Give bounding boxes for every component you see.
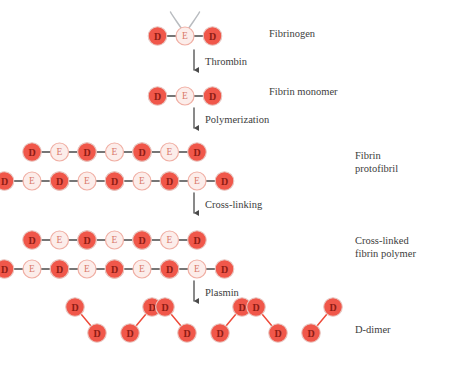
d-dimer-link bbox=[81, 314, 91, 326]
d-node-label: D bbox=[148, 302, 155, 313]
d-domain-node: D bbox=[247, 298, 266, 317]
d-domain-node: D bbox=[121, 324, 140, 343]
node-layer: DEDDEDDEDDEDDEDDEDDEDDEDDEDDEDDEDDEDDEDD… bbox=[0, 27, 342, 343]
e-node-label: E bbox=[182, 91, 188, 101]
d-dimer-link bbox=[317, 314, 327, 326]
e-domain-node: E bbox=[176, 27, 194, 45]
e-domain-node: E bbox=[78, 260, 96, 278]
e-node-label: E bbox=[182, 31, 188, 41]
d-domain-node: D bbox=[66, 298, 85, 317]
stage-label-fibrin-monomer: Fibrin monomer bbox=[269, 86, 338, 99]
d-node-label: D bbox=[154, 91, 161, 102]
d-domain-node: D bbox=[0, 260, 14, 279]
fibrinopeptide-whisker bbox=[171, 12, 182, 29]
d-node-label: D bbox=[83, 235, 90, 246]
d-domain-node: D bbox=[133, 231, 152, 250]
d-node-label: D bbox=[138, 235, 145, 246]
e-node-label: E bbox=[194, 176, 200, 186]
e-node-label: E bbox=[139, 176, 145, 186]
e-node-label: E bbox=[84, 176, 90, 186]
e-domain-node: E bbox=[23, 172, 41, 190]
d-domain-node: D bbox=[188, 231, 207, 250]
d-node-label: D bbox=[193, 147, 200, 158]
e-node-label: E bbox=[29, 264, 35, 274]
d-dimer-link bbox=[171, 314, 181, 326]
d-node-label: D bbox=[209, 91, 216, 102]
arrow-label-plasmin: Plasmin bbox=[205, 287, 239, 298]
e-node-label: E bbox=[84, 264, 90, 274]
e-domain-node: E bbox=[161, 231, 179, 249]
e-domain-node: E bbox=[133, 172, 151, 190]
arrow-label-polymerization: Polymerization bbox=[205, 114, 269, 125]
e-domain-node: E bbox=[23, 260, 41, 278]
e-domain-node: E bbox=[106, 231, 124, 249]
d-dimer-link bbox=[226, 314, 236, 326]
d-domain-node: D bbox=[160, 172, 179, 191]
d-dimer-link bbox=[136, 314, 146, 326]
d-node-label: D bbox=[166, 176, 173, 187]
d-domain-node: D bbox=[133, 143, 152, 162]
e-node-label: E bbox=[167, 147, 173, 157]
whisker-layer bbox=[171, 12, 200, 29]
d-domain-node: D bbox=[188, 143, 207, 162]
e-node-label: E bbox=[139, 264, 145, 274]
e-domain-node: E bbox=[106, 143, 124, 161]
d-domain-node: D bbox=[148, 87, 167, 106]
d-node-label: D bbox=[238, 302, 245, 313]
e-node-label: E bbox=[57, 235, 63, 245]
d-domain-node: D bbox=[23, 231, 42, 250]
d-node-label: D bbox=[56, 176, 63, 187]
e-domain-node: E bbox=[133, 260, 151, 278]
e-domain-node: E bbox=[78, 172, 96, 190]
d-domain-node: D bbox=[105, 260, 124, 279]
d-domain-node: D bbox=[23, 143, 42, 162]
d-domain-node: D bbox=[88, 324, 107, 343]
d-domain-node: D bbox=[215, 172, 234, 191]
d-node-label: D bbox=[1, 264, 8, 275]
d-node-label: D bbox=[193, 235, 200, 246]
d-node-label: D bbox=[221, 176, 228, 187]
d-node-label: D bbox=[209, 31, 216, 42]
fibrin-cascade-diagram: DEDDEDDEDDEDDEDDEDDEDDEDDEDDEDDEDDEDDEDD… bbox=[0, 0, 449, 366]
stage-label-cross-linked-fibrin-polymer: Cross-linked fibrin polymer bbox=[355, 235, 416, 260]
e-node-label: E bbox=[167, 235, 173, 245]
e-node-label: E bbox=[194, 264, 200, 274]
d-domain-node: D bbox=[105, 172, 124, 191]
d-domain-node: D bbox=[160, 260, 179, 279]
d-domain-node: D bbox=[156, 298, 175, 317]
d-node-label: D bbox=[329, 302, 336, 313]
d-domain-node: D bbox=[78, 231, 97, 250]
d-domain-node: D bbox=[203, 27, 222, 46]
d-node-label: D bbox=[138, 147, 145, 158]
e-domain-node: E bbox=[188, 172, 206, 190]
d-node-label: D bbox=[56, 264, 63, 275]
d-node-label: D bbox=[1, 176, 8, 187]
arrow-label-cross-linking: Cross-linking bbox=[205, 199, 262, 210]
d-domain-node: D bbox=[215, 260, 234, 279]
d-node-label: D bbox=[126, 328, 133, 339]
d-node-label: D bbox=[216, 328, 223, 339]
d-node-label: D bbox=[166, 264, 173, 275]
d-node-label: D bbox=[93, 328, 100, 339]
d-domain-node: D bbox=[178, 324, 197, 343]
d-node-label: D bbox=[111, 176, 118, 187]
d-domain-node: D bbox=[203, 87, 222, 106]
e-domain-node: E bbox=[188, 260, 206, 278]
d-domain-node: D bbox=[148, 27, 167, 46]
d-domain-node: D bbox=[50, 172, 69, 191]
fibrinopeptide-whisker bbox=[189, 12, 200, 29]
d-domain-node: D bbox=[324, 298, 343, 317]
e-node-label: E bbox=[29, 176, 35, 186]
diagram-canvas: DEDDEDDEDDEDDEDDEDDEDDEDDEDDEDDEDDEDDEDD… bbox=[0, 0, 449, 366]
d-domain-node: D bbox=[269, 324, 288, 343]
d-domain-node: D bbox=[78, 143, 97, 162]
e-node-label: E bbox=[112, 235, 118, 245]
e-domain-node: E bbox=[161, 143, 179, 161]
d-dimer-link bbox=[262, 314, 272, 326]
d-node-label: D bbox=[28, 147, 35, 158]
d-node-label: D bbox=[154, 31, 161, 42]
d-node-label: D bbox=[307, 328, 314, 339]
d-node-label: D bbox=[252, 302, 259, 313]
e-domain-node: E bbox=[51, 143, 69, 161]
e-domain-node: E bbox=[51, 231, 69, 249]
